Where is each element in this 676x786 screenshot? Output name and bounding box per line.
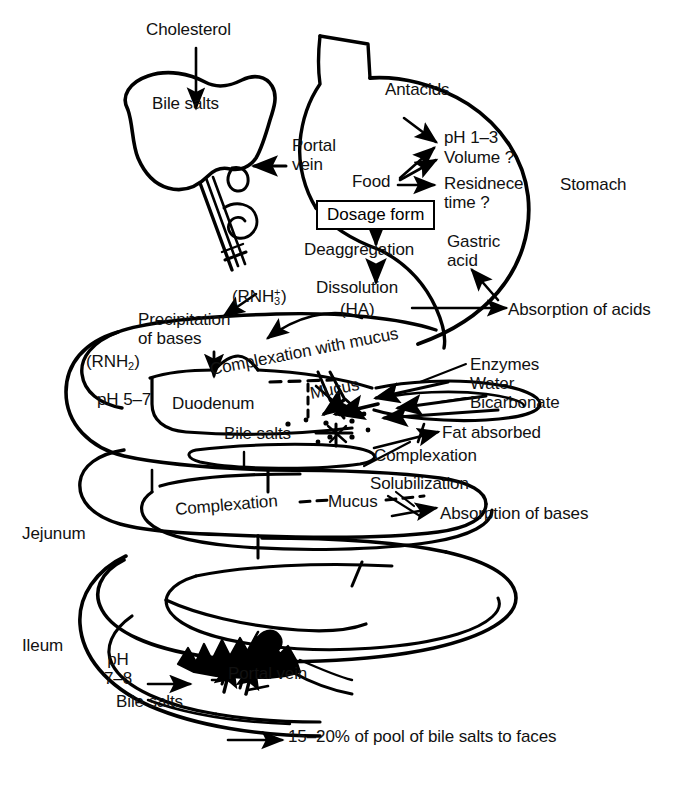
dosage-form-box: Dosage form bbox=[316, 200, 435, 230]
label-stomach-volume: Volume ? bbox=[444, 148, 514, 167]
label-ha-species: (HA) bbox=[340, 300, 375, 319]
label-rnh3-species: (RNH+3) bbox=[232, 285, 287, 306]
label-dissolution: Dissolution bbox=[316, 278, 398, 297]
label-food: Food bbox=[352, 172, 390, 191]
label-cholesterol: Cholesterol bbox=[146, 20, 231, 39]
label-bicarbonate: Bicarbonate bbox=[470, 393, 560, 412]
label-fat-absorbed: Fat absorbed bbox=[442, 423, 541, 442]
label-antacids: Antacids bbox=[385, 80, 449, 99]
label-precipitation-of-bases: Precipitation of bases bbox=[138, 310, 230, 348]
label-mucus-jejunum: Mucus bbox=[328, 492, 378, 511]
label-portal-vein-lower: Portal vein bbox=[228, 664, 307, 683]
label-deaggregation: Deaggregation bbox=[304, 240, 414, 259]
label-residence-time: Residnece time ? bbox=[444, 174, 523, 212]
label-gastric-acid: Gastric acid bbox=[447, 232, 500, 270]
label-portal-vein-upper: Portal vein bbox=[292, 136, 336, 174]
label-ileum-ph: pH 7–8 bbox=[104, 650, 132, 688]
label-stomach: Stomach bbox=[560, 175, 626, 194]
label-complexation-duodenum: Complexation bbox=[374, 446, 477, 465]
label-ileum: Ileum bbox=[22, 636, 63, 655]
label-stomach-ph: pH 1–3 bbox=[444, 128, 498, 147]
label-absorption-of-acids: Absorption of acids bbox=[508, 300, 651, 319]
label-liver-bile-salts: Bile salts bbox=[152, 94, 219, 113]
label-bile-salts-ileum: Bile salts bbox=[116, 692, 183, 711]
diagram-canvas: Cholesterol Bile salts Portal vein Antac… bbox=[0, 0, 676, 786]
label-absorption-of-bases: Absorption of bases bbox=[440, 504, 588, 523]
label-duodenum: Duodenum bbox=[172, 394, 254, 413]
label-bile-salt-excretion: 15–20% of pool of bile salts to faces bbox=[288, 727, 556, 746]
label-solubilization: Solubilization bbox=[370, 474, 469, 493]
label-duodenum-ph: pH 5–7 bbox=[97, 390, 151, 409]
label-enzymes: Enzymes bbox=[470, 355, 539, 374]
label-rnh2-species: (RNH2) bbox=[86, 352, 140, 376]
label-jejunum: Jejunum bbox=[22, 524, 86, 543]
label-water: Water bbox=[470, 374, 514, 393]
label-bile-salts-duodenum: Bile salts bbox=[224, 424, 291, 443]
